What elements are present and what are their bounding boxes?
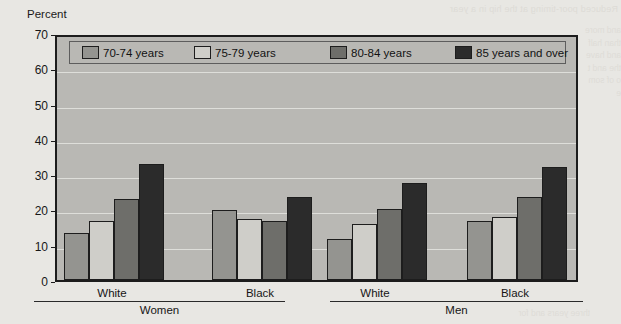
bar xyxy=(352,224,377,280)
y-tick-mark xyxy=(51,282,55,283)
y-tick-label: 60 xyxy=(18,63,48,77)
y-axis-title: Percent xyxy=(27,8,67,20)
bar xyxy=(402,183,427,280)
bar xyxy=(212,210,237,280)
bar xyxy=(542,167,567,280)
legend-item-label: 75-79 years xyxy=(215,47,276,59)
plot-area xyxy=(55,35,578,282)
bar xyxy=(89,221,114,280)
page-bleedthrough-bottom: three years and for xyxy=(380,308,590,322)
gridline xyxy=(57,72,576,73)
chart-legend: 70-74 years75-79 years80-84 years85 year… xyxy=(69,41,566,64)
bar xyxy=(237,219,262,280)
bar xyxy=(377,209,402,280)
x-group-label: White xyxy=(97,287,126,299)
y-tick-label: 20 xyxy=(18,204,48,218)
legend-swatch-icon xyxy=(330,46,347,59)
y-tick-label: 70 xyxy=(18,28,48,42)
bar xyxy=(327,239,352,280)
legend-item: 75-79 years xyxy=(194,42,276,63)
x-group-rule xyxy=(330,301,583,302)
x-group-label: Black xyxy=(246,287,274,299)
bar xyxy=(287,197,312,280)
gridline xyxy=(57,178,576,179)
y-tick-label: 0 xyxy=(18,275,48,289)
legend-item-label: 80-84 years xyxy=(351,47,412,59)
legend-item-label: 70-74 years xyxy=(103,47,164,59)
legend-swatch-icon xyxy=(82,46,99,59)
bar xyxy=(262,221,287,280)
legend-swatch-icon xyxy=(194,46,211,59)
y-tick-label: 30 xyxy=(18,169,48,183)
bar xyxy=(139,164,164,280)
bar xyxy=(517,197,542,280)
y-tick-label: 10 xyxy=(18,240,48,254)
bar xyxy=(64,233,89,280)
x-super-label: Women xyxy=(140,304,179,316)
gridline xyxy=(57,108,576,109)
legend-swatch-icon xyxy=(455,46,472,59)
x-super-label: Men xyxy=(445,304,467,316)
bar xyxy=(467,221,492,280)
x-group-label: Black xyxy=(501,287,529,299)
y-tick-label: 50 xyxy=(18,99,48,113)
legend-item: 85 years and over xyxy=(455,42,568,63)
bar xyxy=(492,217,517,280)
legend-item: 80-84 years xyxy=(330,42,412,63)
x-group-label: White xyxy=(360,287,389,299)
gridline xyxy=(57,143,576,144)
page-bleedthrough-right: and more than half and have the and to o… xyxy=(585,24,621,296)
legend-item-label: 85 years and over xyxy=(476,47,568,59)
x-group-rule xyxy=(34,301,285,302)
bar-chart-figure: Reduced poor-timing at the hip in a year… xyxy=(0,0,621,324)
y-tick-label: 40 xyxy=(18,134,48,148)
legend-item: 70-74 years xyxy=(82,42,164,63)
page-bleedthrough-top: Reduced poor-timing at the hip in a year xyxy=(378,4,618,20)
bar xyxy=(114,199,139,280)
